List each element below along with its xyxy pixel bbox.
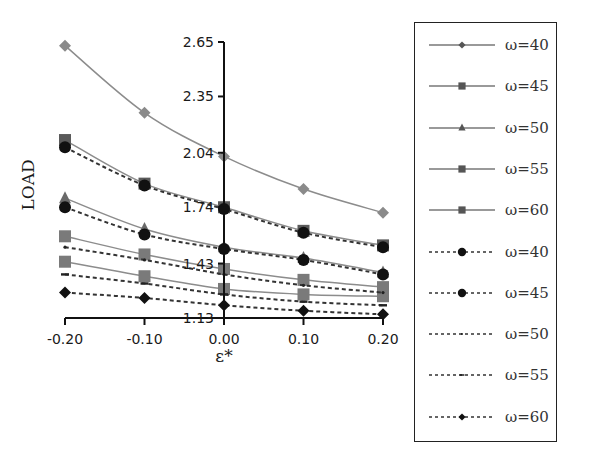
y-tick-label: 2.65 — [183, 34, 214, 50]
square-icon — [425, 159, 501, 179]
circle-marker — [139, 179, 151, 191]
legend-label: ω=45 — [505, 76, 549, 96]
line-chart: -0.20-0.100.000.100.20 2.652.352.041.741… — [0, 0, 410, 463]
diamond-marker — [458, 41, 465, 48]
legend-item: ω=60 — [425, 200, 555, 220]
square-marker — [458, 83, 465, 90]
x-tick-label: 0.00 — [208, 331, 239, 347]
x-tick-label: 0.20 — [367, 331, 398, 347]
dot-marker — [63, 246, 66, 249]
legend: ω=40ω=45ω=50ω=55ω=60ω=40ω=45ω=50ω=55ω=60 — [414, 22, 557, 442]
circle-marker — [377, 241, 389, 253]
circle-icon — [425, 242, 501, 262]
circle-marker — [377, 268, 389, 280]
legend-label: ω=50 — [505, 118, 549, 138]
y-tick-label: 1.43 — [183, 256, 214, 272]
legend-label: ω=60 — [505, 407, 549, 427]
legend-item: ω=50 — [425, 324, 555, 344]
x-tick-label: 0.10 — [288, 331, 319, 347]
legend-item: ω=55 — [425, 365, 555, 385]
triangle-icon — [425, 118, 501, 138]
diamond-marker — [139, 107, 151, 119]
legend-label: ω=40 — [505, 242, 549, 262]
y-tick-label: 1.13 — [183, 310, 214, 326]
legend-label: ω=50 — [505, 324, 549, 344]
legend-item: ω=45 — [425, 76, 555, 96]
legend-item: ω=45 — [425, 283, 555, 303]
y-ticks: 2.652.352.041.741.431.13 — [183, 34, 224, 326]
dot-marker — [143, 258, 146, 261]
dash-marker — [141, 282, 149, 284]
diamond-marker — [298, 183, 310, 195]
dot-marker — [381, 291, 384, 294]
dot-marker — [302, 284, 305, 287]
dash-marker — [300, 300, 308, 302]
legend-label: ω=55 — [505, 159, 549, 179]
dash-marker — [379, 304, 387, 306]
diamond-marker — [298, 305, 310, 317]
square-x-marker — [59, 256, 71, 268]
legend-label: ω=45 — [505, 283, 549, 303]
dot-marker — [461, 333, 463, 335]
dash-marker — [61, 273, 69, 275]
triangle-marker — [458, 123, 465, 130]
x-ticks: -0.20-0.100.000.100.20 — [47, 318, 399, 347]
circle-marker — [298, 254, 310, 266]
circle-marker — [139, 228, 151, 240]
x-tick-label: -0.20 — [47, 331, 83, 347]
x-axis-title: ε* — [215, 346, 233, 366]
legend-label: ω=60 — [505, 200, 549, 220]
diamond-icon — [425, 35, 501, 55]
legend-label: ω=55 — [505, 365, 549, 385]
square-icon — [425, 76, 501, 96]
y-axis-title: LOAD — [18, 159, 38, 210]
diamond-marker — [458, 413, 465, 420]
circle-icon — [425, 283, 501, 303]
dash-marker — [460, 375, 465, 376]
legend-label: ω=40 — [505, 35, 549, 55]
legend-item: ω=50 — [425, 118, 555, 138]
square-marker — [59, 230, 71, 242]
legend-item: ω=55 — [425, 159, 555, 179]
square-x-marker — [298, 288, 310, 300]
square-x-marker — [139, 270, 151, 282]
legend-item: ω=40 — [425, 35, 555, 55]
dash-icon — [425, 365, 501, 385]
y-tick-label: 1.74 — [183, 199, 214, 215]
legend-item: ω=40 — [425, 242, 555, 262]
dot-icon — [425, 324, 501, 344]
diamond-marker — [139, 292, 151, 304]
square-marker — [458, 165, 465, 172]
legend-item: ω=60 — [425, 407, 555, 427]
diamond-icon — [425, 407, 501, 427]
y-tick-label: 2.04 — [183, 145, 214, 161]
circle-marker — [59, 141, 71, 153]
circle-marker — [298, 227, 310, 239]
diamond-marker — [377, 207, 389, 219]
circle-marker — [458, 289, 466, 297]
circle-marker — [59, 201, 71, 213]
y-tick-label: 2.35 — [183, 88, 214, 104]
square-x-icon — [425, 200, 501, 220]
square-x-marker — [458, 207, 465, 214]
x-tick-label: -0.10 — [126, 331, 162, 347]
circle-marker — [458, 247, 466, 255]
diamond-marker — [59, 287, 71, 299]
